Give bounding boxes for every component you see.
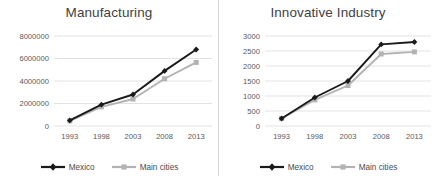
- line-chart-innovative-industry: 0500100015002000250030001993199820032008…: [219, 0, 437, 176]
- data-point: [412, 39, 418, 45]
- axis-ticks: 0200000040000006000000800000019931998200…: [19, 32, 204, 141]
- x-axis-tick-label: 2008: [373, 132, 390, 141]
- gridlines: [54, 36, 212, 126]
- diamond-marker-icon: [259, 162, 285, 172]
- legend-item-mexico[interactable]: Mexico: [259, 162, 314, 172]
- y-axis-tick-label: 0: [256, 122, 260, 131]
- square-marker-icon: [330, 162, 356, 172]
- axis-ticks: 0500100015002000250030001993199820032008…: [243, 32, 423, 141]
- series-main-cities: [279, 49, 417, 121]
- plot-area-innovative-industry: 0500100015002000250030001993199820032008…: [219, 0, 437, 176]
- y-axis-tick-label: 1000: [243, 92, 260, 101]
- data-point: [194, 60, 199, 65]
- x-axis-tick-label: 2003: [340, 132, 357, 141]
- x-axis-tick-label: 1998: [93, 132, 110, 141]
- legend-item-main-cities[interactable]: Main cities: [330, 162, 398, 172]
- y-axis-tick-label: 6000000: [19, 54, 49, 63]
- legend-label-mexico: Mexico: [288, 163, 314, 172]
- x-axis-tick-label: 2013: [406, 132, 423, 141]
- square-marker-icon: [111, 162, 137, 172]
- y-axis-tick-label: 2500: [243, 47, 260, 56]
- y-axis-tick-label: 1500: [243, 77, 260, 86]
- chart-panel-manufacturing: Manufacturing 02000000400000060000008000…: [0, 0, 218, 176]
- legend-label-mexico: Mexico: [69, 163, 95, 172]
- y-axis-tick-label: 2000: [243, 62, 260, 71]
- y-axis-tick-label: 8000000: [19, 32, 49, 41]
- legend-item-main-cities[interactable]: Main cities: [111, 162, 179, 172]
- chart-panel-innovative-industry: Innovative Industry 05001000150020002500…: [219, 0, 437, 176]
- legend-label-main-cities: Main cities: [140, 163, 179, 172]
- x-axis-tick-label: 1993: [61, 132, 78, 141]
- y-axis-tick-label: 4000000: [19, 77, 49, 86]
- plot-area-manufacturing: 0200000040000006000000800000019931998200…: [0, 0, 218, 176]
- legend-manufacturing: Mexico Main cities: [0, 162, 218, 172]
- x-axis-tick-label: 2003: [125, 132, 142, 141]
- x-axis-tick-label: 2013: [188, 132, 205, 141]
- y-axis-tick-label: 0: [45, 122, 49, 131]
- series-line: [70, 50, 196, 121]
- y-axis-tick-label: 3000: [243, 32, 260, 41]
- y-axis-tick-label: 2000000: [19, 99, 49, 108]
- x-axis-tick-label: 1993: [273, 132, 290, 141]
- data-point: [412, 49, 417, 54]
- legend-item-mexico[interactable]: Mexico: [40, 162, 95, 172]
- chart-sheet: Manufacturing 02000000400000060000008000…: [0, 0, 437, 176]
- x-axis-tick-label: 2008: [156, 132, 173, 141]
- legend-label-main-cities: Main cities: [359, 163, 398, 172]
- data-point: [379, 52, 384, 57]
- data-point: [162, 76, 167, 81]
- x-axis-tick-label: 1998: [306, 132, 323, 141]
- y-axis-tick-label: 500: [247, 107, 260, 116]
- line-chart-manufacturing: 0200000040000006000000800000019931998200…: [0, 0, 218, 176]
- legend-innovative-industry: Mexico Main cities: [219, 162, 437, 172]
- diamond-marker-icon: [40, 162, 66, 172]
